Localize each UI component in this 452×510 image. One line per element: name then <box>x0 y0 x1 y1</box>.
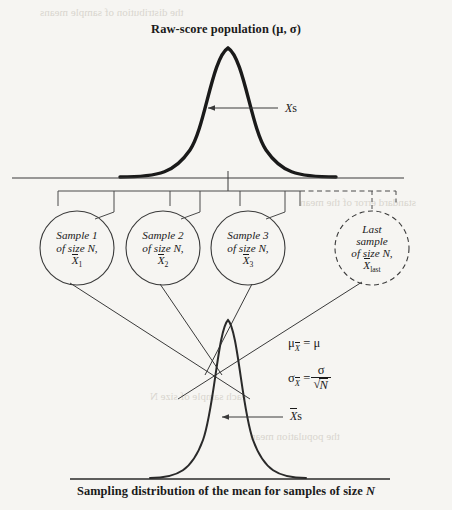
sample-line-1: Sample 1 <box>27 229 127 242</box>
sample-line-1: Last <box>322 223 422 235</box>
sampling-label-symbol: X <box>290 409 297 424</box>
sample-line-1: Sample 3 <box>198 229 298 242</box>
sample-mean-symbol: Xlast <box>322 259 422 276</box>
formula-sd-numerator: σ <box>311 364 331 378</box>
stem-join-2 <box>181 212 200 219</box>
sample-mean-symbol: X1 <box>27 254 127 272</box>
connector-sample-last <box>178 282 362 399</box>
figure-canvas: the distribution of sample means standar… <box>0 0 452 510</box>
formula-mean-rhs: μ <box>313 336 320 350</box>
sampling-distribution-curve <box>150 320 306 478</box>
population-label: Xs <box>285 101 297 116</box>
sample-line-2: of size N, <box>27 242 127 255</box>
sample-line-3: of size N, <box>322 247 422 259</box>
figure-title-top: Raw-score population (μ, σ) <box>0 22 452 37</box>
formula-sd-subscript: X <box>295 378 300 388</box>
caption-text: Sampling distribution of the mean for sa… <box>77 484 366 498</box>
formula-mean: μX = μ <box>288 336 320 353</box>
caption-italic-n: N <box>366 484 375 498</box>
formula-sd-fraction: σ N <box>311 364 331 393</box>
sample-line-2: sample <box>322 235 422 247</box>
sampling-label-suffix: s <box>297 409 302 423</box>
connector-sample-3 <box>205 284 252 375</box>
stem-join-1 <box>95 212 114 219</box>
population-curve <box>120 48 336 177</box>
figure-caption-bottom: Sampling distribution of the mean for sa… <box>0 484 452 499</box>
population-label-suffix: s <box>292 101 297 115</box>
formula-mean-lhs: μ <box>288 336 295 350</box>
formula-mean-equals: = <box>303 336 310 350</box>
population-arrow-head <box>208 105 215 111</box>
formula-sd-denominator: N <box>311 378 331 392</box>
formula-sd-lhs: σ <box>288 371 295 385</box>
sampling-label: Xs <box>290 409 302 424</box>
sample-text-1: Sample 1 of size N, X1 <box>27 229 127 272</box>
sample-text-3: Sample 3 of size N, X3 <box>198 229 298 272</box>
sampling-arrow-head <box>222 414 229 420</box>
sample-line-2: of size N, <box>198 242 298 255</box>
formula-mean-subscript: X <box>295 343 300 353</box>
sample-text-last: Last sample of size N, Xlast <box>322 223 422 276</box>
stem-join-3 <box>266 212 285 219</box>
formula-sd: σX = σ N <box>288 364 332 393</box>
sample-mean-symbol: X3 <box>198 254 298 272</box>
formula-sd-equals: = <box>303 371 310 385</box>
